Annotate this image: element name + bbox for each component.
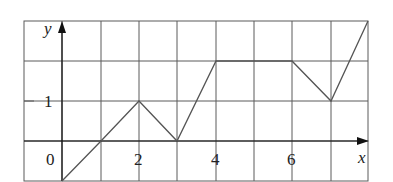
x-axis-label: x — [357, 148, 366, 167]
x-axis-arrow-icon — [357, 137, 369, 145]
y-axis-arrow-icon — [58, 21, 66, 33]
y-axis-label: y — [42, 19, 52, 38]
graph: y x 0 2 4 6 1 — [0, 0, 393, 182]
y-tick-label-1: 1 — [44, 92, 53, 111]
axes — [24, 27, 362, 181]
x-tick-label-6: 6 — [287, 150, 296, 169]
x-tick-label-4: 4 — [211, 150, 220, 169]
x-tick-label-2: 2 — [134, 150, 143, 169]
origin-label: 0 — [46, 150, 55, 169]
